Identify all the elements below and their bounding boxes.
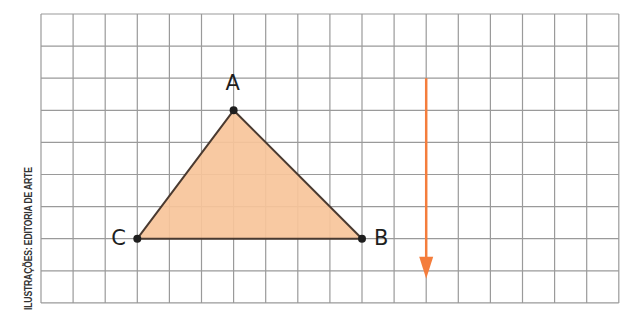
vertex-point-c <box>133 235 141 243</box>
vertex-label-a: A <box>226 73 240 94</box>
grid-diagram <box>0 0 626 326</box>
illustration-credit: ILUSTRAÇÕES: EDITORIA DE ARTE <box>22 167 34 310</box>
vertex-label-c: C <box>111 228 126 249</box>
arrow-head-icon <box>419 257 433 279</box>
vertex-label-b: B <box>374 228 388 249</box>
square-grid <box>41 14 619 303</box>
vertex-point-b <box>358 235 366 243</box>
translation-vector-arrow <box>419 78 433 279</box>
vertex-point-a <box>230 106 238 114</box>
